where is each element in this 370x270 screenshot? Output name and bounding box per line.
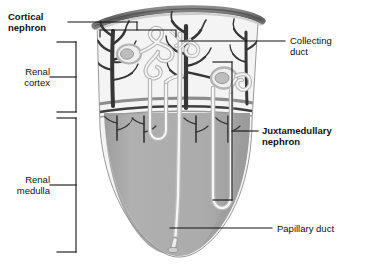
label-renal-medulla: Renal medulla — [6, 174, 50, 196]
label-juxtamedullary-nephron: Juxtamedullary nephron — [262, 125, 368, 147]
label-cortical-nephron: Cortical nephron — [8, 11, 70, 33]
bracket-left-medulla — [50, 118, 76, 252]
bracket-left-cortex — [50, 42, 76, 112]
label-renal-cortex: Renal cortex — [6, 66, 50, 88]
label-papillary-duct: Papillary duct — [277, 223, 369, 234]
diagram-canvas: Cortical nephron Renal cortex Renal medu… — [0, 0, 370, 270]
glomerulus-cortical — [117, 45, 141, 64]
label-collecting-duct: Collecting duct — [290, 35, 368, 57]
